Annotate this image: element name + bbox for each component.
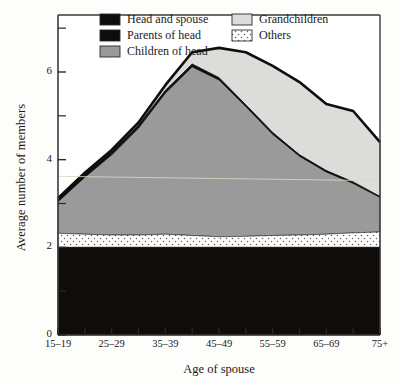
x-tick-label-5559: 55–59 — [251, 338, 295, 349]
legend-swatch-parents-of-head — [100, 30, 120, 41]
x-tick-label-75+: 75+ — [358, 338, 401, 349]
area-head-and-spouse — [58, 247, 380, 335]
legend-swatch-head-and-spouse — [100, 14, 120, 25]
x-tick-label-3539: 35–39 — [143, 338, 187, 349]
legend-label-others: Others — [259, 28, 291, 43]
legend-swatch-children-of-head — [100, 46, 120, 57]
y-tick-label-4: 4 — [36, 152, 52, 164]
y-tick-label-6: 6 — [36, 64, 52, 76]
legend-label-parents-of-head: Parents of head — [127, 28, 201, 43]
legend-label-head-and-spouse: Head and spouse — [127, 12, 208, 27]
y-axis-title: Average number of members — [14, 53, 29, 303]
legend-label-grandchildren: Grandchildren — [259, 12, 328, 27]
x-tick-label-4549: 45–49 — [197, 338, 241, 349]
x-tick-label-1519: 15–19 — [36, 338, 80, 349]
y-tick-label-2: 2 — [36, 239, 52, 251]
legend-swatch-others — [232, 30, 252, 41]
legend-label-children-of-head: Children of head — [127, 44, 208, 59]
legend-swatch-grandchildren — [232, 14, 252, 25]
x-tick-label-6569: 65–69 — [304, 338, 348, 349]
x-axis-title: Age of spouse — [58, 362, 380, 377]
x-tick-label-2529: 25–29 — [90, 338, 134, 349]
y-tick-label-0: 0 — [36, 327, 52, 339]
